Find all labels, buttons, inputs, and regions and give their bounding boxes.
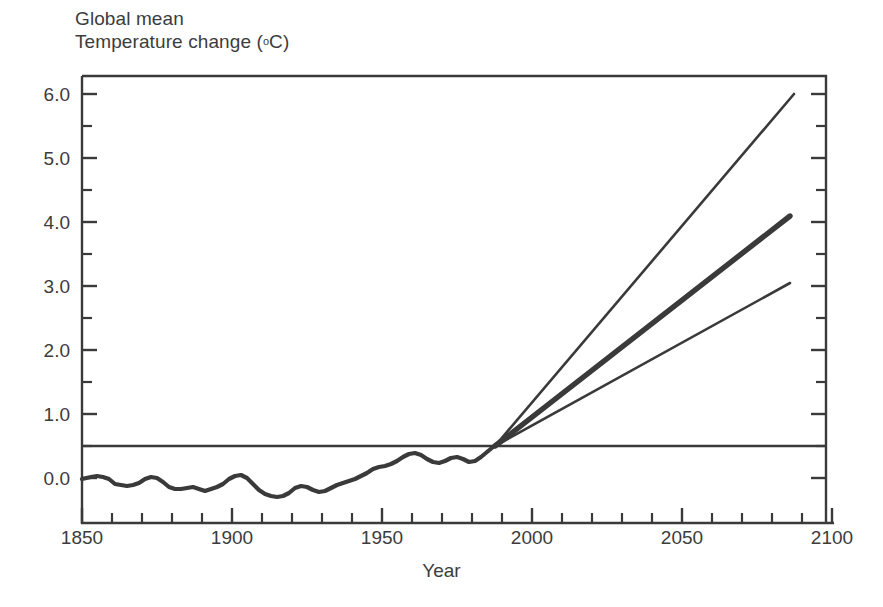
- series-best-estimate-projection: [495, 216, 790, 446]
- x-axis-minor-ticks: [112, 513, 802, 523]
- series-high-projection: [495, 94, 794, 446]
- series-low-projection: [495, 283, 790, 446]
- x-axis-title: Year: [0, 560, 883, 582]
- x-tick-label-2050: 2050: [637, 527, 727, 549]
- series-observed-temperature: [82, 447, 493, 497]
- x-tick-label-2100: 2100: [787, 527, 877, 549]
- x-tick-label-1950: 1950: [337, 527, 427, 549]
- y-tick-label-6: 6.0: [14, 84, 70, 106]
- y-tick-label-0: 0.0: [14, 468, 70, 490]
- x-tick-label-1900: 1900: [187, 527, 277, 549]
- y-tick-label-2: 2.0: [14, 340, 70, 362]
- y-tick-label-3: 3.0: [14, 276, 70, 298]
- y-tick-label-1: 1.0: [14, 404, 70, 426]
- x-tick-label-1850: 1850: [37, 527, 127, 549]
- plot-area: [0, 0, 883, 607]
- x-axis-major-ticks: [82, 508, 832, 523]
- y-axis-major-ticks-right: [811, 94, 826, 478]
- x-tick-label-2000: 2000: [487, 527, 577, 549]
- y-tick-label-5: 5.0: [14, 148, 70, 170]
- y-axis-major-ticks: [82, 94, 97, 478]
- chart-figure: Global mean Temperature change (oC): [0, 0, 883, 607]
- y-tick-label-4: 4.0: [14, 212, 70, 234]
